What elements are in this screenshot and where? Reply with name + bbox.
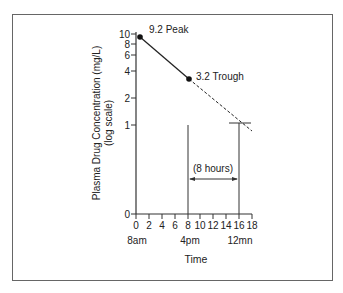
x-tick-label: 2 — [146, 220, 152, 231]
y-axis-sublabel: (log scale) — [103, 100, 114, 146]
trough-point — [186, 76, 192, 82]
y-axis-label-group: Plasma Drug Concentration (mg/L) (log sc… — [91, 46, 114, 201]
x-tick-label: 6 — [172, 220, 178, 231]
time-label-4pm: 4pm — [180, 235, 199, 246]
measured-line — [140, 37, 189, 79]
interval-arrow — [189, 177, 238, 181]
x-tick-label: 12 — [207, 220, 219, 231]
x-tick-labels: 0 2 4 6 8 10 12 14 16 18 — [133, 220, 258, 231]
peak-point — [137, 34, 143, 40]
x-tick-label: 0 — [133, 220, 139, 231]
y-tick-label: 1 — [124, 120, 130, 131]
x-tick-label: 14 — [220, 220, 232, 231]
y-tick-label: 4 — [124, 66, 130, 77]
y-tick-label: 2 — [124, 93, 130, 104]
y-ticks — [131, 34, 136, 214]
y-axis-label: Plasma Drug Concentration (mg/L) — [91, 46, 102, 201]
x-axis-label: Time — [185, 253, 208, 265]
interval-annotation: (8 hours) — [193, 163, 233, 174]
chart-svg: 10 8 6 4 2 1 0 0 2 4 6 8 10 12 14 16 18 … — [0, 0, 343, 293]
y-tick-label: 6 — [124, 50, 130, 61]
x-tick-label: 4 — [159, 220, 165, 231]
time-label-8am: 8am — [127, 235, 146, 246]
time-label-12mn: 12mn — [227, 235, 252, 246]
y-tick-label: 8 — [124, 39, 130, 50]
trough-annotation: 3.2 Trough — [196, 71, 244, 82]
x-tick-label: 18 — [246, 220, 258, 231]
x-tick-label: 16 — [233, 220, 245, 231]
x-ticks — [136, 214, 252, 219]
y-tick-label: 0 — [124, 209, 130, 220]
y-tick-labels: 10 8 6 4 2 1 0 — [119, 29, 131, 220]
x-tick-label: 8 — [185, 220, 191, 231]
peak-annotation: 9.2 Peak — [149, 24, 189, 35]
x-tick-label: 10 — [194, 220, 206, 231]
time-of-day-labels: 8am 4pm 12mn — [127, 235, 252, 246]
